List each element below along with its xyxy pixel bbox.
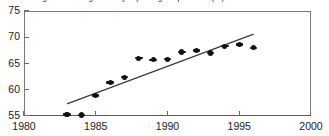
x-tick-label: 1995 bbox=[228, 120, 251, 132]
x-tick-label: 2000 bbox=[299, 120, 322, 132]
x-tick-label: 1990 bbox=[156, 120, 179, 132]
y-tick-mark bbox=[24, 37, 29, 38]
x-tick-mark bbox=[167, 111, 168, 116]
x-tick-mark bbox=[95, 111, 96, 116]
y-tick-label: 60 bbox=[2, 83, 20, 95]
data-point bbox=[194, 48, 199, 53]
data-point bbox=[208, 50, 213, 55]
y-tick-mark bbox=[24, 63, 29, 64]
x-tick-label: 1985 bbox=[84, 120, 107, 132]
data-point bbox=[64, 112, 69, 117]
y-tick-label: 75 bbox=[2, 4, 20, 16]
data-point bbox=[179, 49, 184, 54]
trend-line bbox=[24, 11, 311, 116]
y-tick-mark bbox=[24, 10, 29, 11]
data-point bbox=[122, 75, 127, 80]
y-tick-mark bbox=[24, 89, 29, 90]
data-point bbox=[108, 80, 113, 85]
x-tick-label: 1980 bbox=[12, 120, 35, 132]
y-tick-label: 70 bbox=[2, 30, 20, 42]
data-point bbox=[165, 57, 170, 62]
data-point bbox=[79, 112, 84, 117]
chart-figure: Changes in average weekly reporting freq… bbox=[0, 0, 329, 136]
chart-title: Changes in average weekly reporting freq… bbox=[22, 0, 322, 2]
y-tick-label: 65 bbox=[2, 57, 20, 69]
y-tick-mark bbox=[24, 115, 29, 116]
plot-area bbox=[24, 11, 311, 116]
data-point bbox=[237, 42, 242, 47]
x-tick-mark bbox=[310, 111, 311, 116]
x-tick-mark bbox=[239, 111, 240, 116]
x-tick-mark bbox=[23, 111, 24, 116]
